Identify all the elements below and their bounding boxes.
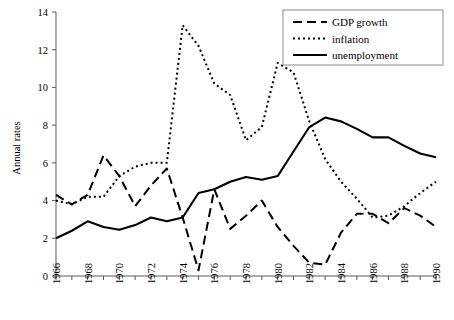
x-tick-label: 1974 [178, 262, 189, 284]
y-tick-label: 4 [43, 195, 49, 206]
y-tick-label: 14 [38, 7, 49, 18]
x-tick-label: 1972 [146, 263, 157, 284]
legend-label-inflation: inflation [332, 33, 370, 45]
y-tick-label: 10 [38, 82, 49, 93]
legend-label-unemployment: unemployment [332, 49, 398, 61]
y-tick-label: 12 [38, 45, 49, 56]
x-tick-label: 1988 [399, 263, 410, 284]
x-tick-label: 1978 [241, 263, 252, 284]
x-tick-label: 1986 [368, 263, 379, 284]
series-line-gdp-growth [56, 155, 436, 270]
x-axis: 1966196819701972197419761978198019821984… [51, 262, 442, 284]
x-tick-label: 1970 [114, 263, 125, 284]
x-tick-label: 1984 [336, 262, 347, 284]
y-tick-label: 0 [43, 271, 48, 282]
y-axis-title: Annual rates [11, 121, 22, 174]
x-tick-label: 1982 [304, 263, 315, 284]
x-tick-label: 1968 [83, 263, 94, 284]
line-chart: 02468101214 1966196819701972197419761978… [0, 0, 454, 320]
legend-label-gdp-growth: GDP growth [332, 16, 388, 28]
x-tick-label: 1976 [209, 263, 220, 284]
series-line-unemployment [56, 118, 436, 239]
y-tick-label: 6 [43, 158, 48, 169]
x-tick-label: 1966 [51, 263, 62, 284]
y-axis: 02468101214 [38, 7, 57, 282]
cropped-caption-remnant [58, 313, 358, 320]
chart-legend: GDP growthinflationunemployment [283, 10, 443, 65]
x-tick-label: 1990 [431, 263, 442, 284]
y-tick-label: 8 [43, 120, 48, 131]
y-tick-label: 2 [43, 233, 48, 244]
x-tick-label: 1980 [273, 263, 284, 284]
figure-container: 02468101214 1966196819701972197419761978… [0, 0, 454, 320]
